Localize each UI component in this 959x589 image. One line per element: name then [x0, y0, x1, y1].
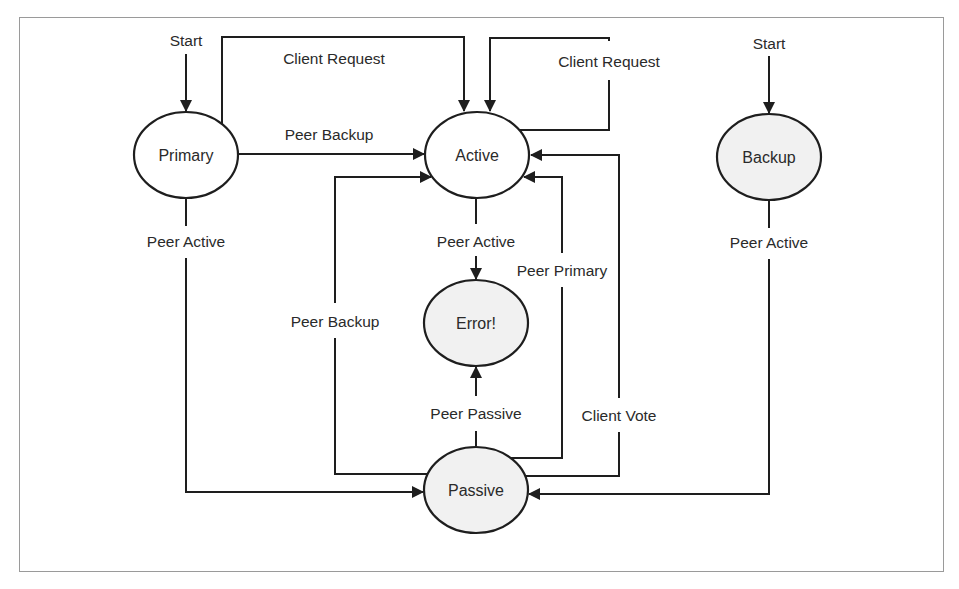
state-node-error: Error! — [424, 280, 528, 366]
edge-label-client-vote-passive: Client Vote — [582, 407, 657, 424]
edge-label-peer-passive-error: Peer Passive — [430, 405, 521, 422]
state-node-backup: Backup — [717, 114, 821, 200]
state-label-primary: Primary — [158, 147, 213, 164]
edge-label-client-request-primary: Client Request — [283, 50, 385, 67]
state-node-primary: Primary — [134, 112, 238, 198]
start-label-backup: Start — [753, 35, 786, 52]
edge-label-peer-active-primary: Peer Active — [147, 233, 225, 250]
edge-label-peer-active-error: Peer Active — [437, 233, 515, 250]
edge-label-peer-backup-passive: Peer Backup — [291, 313, 380, 330]
edge-label-client-request-active: Client Request — [558, 53, 660, 70]
edge-label-peer-active-backup: Peer Active — [730, 234, 808, 251]
state-label-active: Active — [455, 147, 499, 164]
start-label-primary: Start — [170, 32, 203, 49]
edge-passive-to-active-client-vote — [522, 155, 619, 476]
state-label-backup: Backup — [742, 149, 795, 166]
state-label-error: Error! — [456, 315, 496, 332]
edge-label-peer-backup-primary: Peer Backup — [285, 126, 374, 143]
edge-label-peer-primary-passive: Peer Primary — [517, 262, 608, 279]
state-node-active: Active — [425, 112, 529, 198]
state-label-passive: Passive — [448, 482, 504, 499]
state-node-passive: Passive — [424, 447, 528, 533]
state-diagram: Start Start Client Request Peer Backup C… — [0, 0, 959, 589]
